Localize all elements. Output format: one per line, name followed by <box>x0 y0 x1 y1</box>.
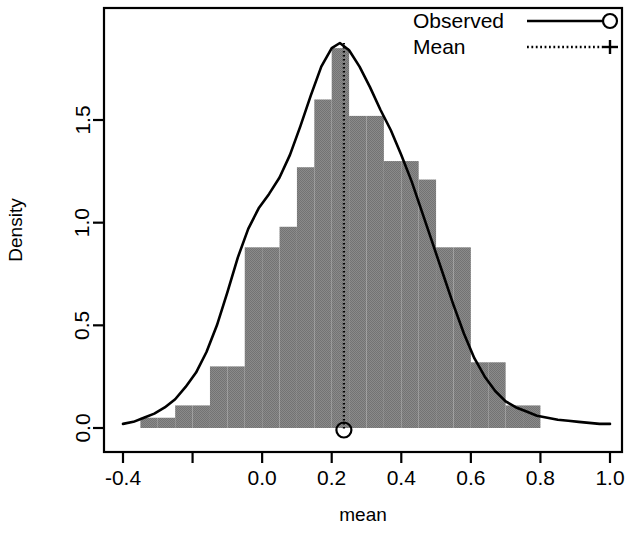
histogram-bar <box>488 362 505 428</box>
y-tick-label: 1.5 <box>71 105 94 134</box>
histogram-bar <box>175 405 192 428</box>
histogram-bar <box>401 161 418 428</box>
histogram-bar <box>262 247 279 428</box>
x-tick-label: 0.2 <box>317 466 346 489</box>
y-tick-label: 0.5 <box>71 311 94 340</box>
histogram-bar <box>349 116 366 428</box>
x-tick-label: 1.0 <box>595 466 624 489</box>
histogram-bar <box>453 247 470 428</box>
y-tick-label: 1.0 <box>71 208 94 237</box>
density-histogram-plot: -0.40.00.20.40.60.81.0 0.00.51.01.5 mean… <box>0 0 636 534</box>
histogram-bar <box>332 48 349 428</box>
histogram-bar <box>245 247 262 428</box>
histogram-bar <box>280 227 297 428</box>
histogram-bar <box>471 362 488 428</box>
y-tick-label: 0.0 <box>71 413 94 442</box>
histogram-bar <box>367 116 384 428</box>
histogram-bar <box>314 99 331 428</box>
histogram-bar <box>193 405 210 428</box>
x-tick-label: 0.6 <box>456 466 485 489</box>
chart-root: -0.40.00.20.40.60.81.0 0.00.51.01.5 mean… <box>0 0 636 534</box>
legend-label-mean: Mean <box>413 35 466 58</box>
x-tick-label: 0.4 <box>387 466 417 489</box>
histogram-bar <box>384 161 401 428</box>
histogram-bar <box>419 180 436 428</box>
x-tick-label: 0.0 <box>248 466 277 489</box>
legend-label-observed: Observed <box>413 9 504 32</box>
histogram-bar <box>436 247 453 428</box>
x-axis-title: mean <box>339 504 387 525</box>
x-tick-label: 0.8 <box>526 466 555 489</box>
y-axis-title: Density <box>5 198 26 262</box>
histogram-bar <box>227 366 244 428</box>
x-tick-label: -0.4 <box>105 466 142 489</box>
histogram-bar <box>210 366 227 428</box>
histogram-bar <box>158 418 175 428</box>
histogram-bar <box>297 167 314 428</box>
